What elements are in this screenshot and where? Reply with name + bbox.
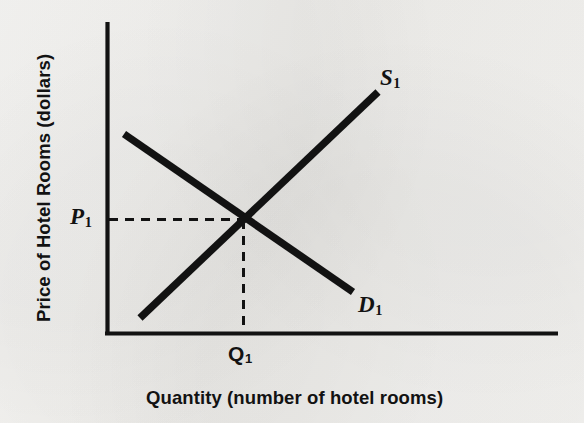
x-axis-title: Quantity (number of hotel rooms) <box>146 389 443 408</box>
demand-curve <box>124 134 353 292</box>
equilibrium-quantity-label-letter: Q <box>228 342 244 365</box>
equilibrium-quantity-label: Q1 <box>228 343 252 364</box>
demand-curve-label-letter: D <box>358 292 375 317</box>
demand-curve-label: D1 <box>358 293 382 316</box>
supply-curve-label-letter: S <box>380 65 393 90</box>
equilibrium-price-label: P1 <box>70 205 91 228</box>
equilibrium-quantity-label-subscript: 1 <box>245 351 252 366</box>
supply-curve-label: S1 <box>380 66 400 89</box>
demand-curve-label-subscript: 1 <box>375 302 382 318</box>
equilibrium-price-label-letter: P <box>70 204 84 229</box>
supply-demand-figure: Price of Hotel Rooms (dollars) Quantity … <box>0 0 584 423</box>
supply-curve-label-subscript: 1 <box>393 75 400 91</box>
y-axis-title: Price of Hotel Rooms (dollars) <box>35 22 54 322</box>
equilibrium-price-label-subscript: 1 <box>85 214 92 230</box>
